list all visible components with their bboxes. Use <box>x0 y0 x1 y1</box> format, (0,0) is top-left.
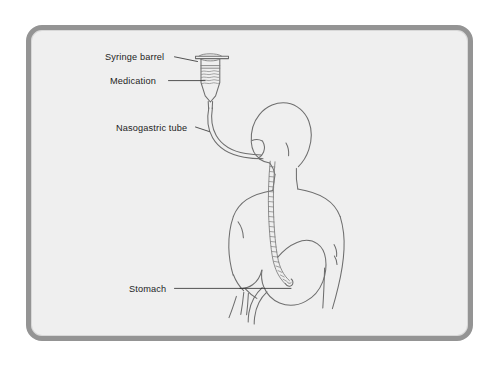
leader-syringe-barrel <box>175 57 198 62</box>
tube-tip-port <box>287 282 291 283</box>
arm-left-forearm <box>229 296 236 317</box>
leader-nasogastric-tube <box>196 127 210 132</box>
neck-right <box>296 168 298 189</box>
shoulder-right <box>298 189 340 217</box>
figure-root: Syringe barrel Medication Nasogastric tu… <box>0 0 499 366</box>
stomach-organ <box>240 240 326 324</box>
torso <box>229 168 344 317</box>
waist-left <box>241 292 244 314</box>
label-medication-text: Medication <box>110 76 156 86</box>
torso-side-right <box>323 268 325 308</box>
nasogastric-tube-diagram: Syringe barrel Medication Nasogastric tu… <box>0 0 499 366</box>
label-medication: Medication <box>110 76 205 86</box>
label-nasogastric-tube-text: Nasogastric tube <box>116 123 187 133</box>
syringe-flange-inner <box>199 54 222 56</box>
waist-left-2 <box>247 293 249 315</box>
head <box>251 103 311 175</box>
brow-line <box>252 140 262 141</box>
mouth-chin-line <box>259 159 269 163</box>
syringe <box>196 54 229 109</box>
medication-fluid <box>201 71 219 84</box>
arm-left-outer <box>229 216 234 275</box>
annotation-layer: Syringe barrel Medication Nasogastric tu… <box>105 52 291 294</box>
esophagus-tube-right-wall <box>273 162 289 281</box>
label-syringe-barrel-text: Syringe barrel <box>105 52 164 62</box>
label-nasogastric-tube: Nasogastric tube <box>116 123 209 133</box>
arm-right-inner-fold-2 <box>334 256 337 264</box>
esophagus-tube-rungs <box>269 167 287 282</box>
shoulder-left <box>233 190 272 216</box>
ear-line <box>286 143 289 156</box>
stomach-lesser-curvature <box>240 270 262 288</box>
esophagus-tube-left-wall <box>268 161 285 284</box>
tube-inner-wall <box>212 108 262 155</box>
label-stomach-text: Stomach <box>129 284 166 294</box>
label-syringe-barrel: Syringe barrel <box>105 52 198 62</box>
arm-right-outer <box>332 217 344 309</box>
pylorus-duodenum-upper <box>248 288 262 322</box>
pylorus-duodenum-lower <box>254 292 267 324</box>
syringe-flange <box>196 56 229 58</box>
arm-right-inner-fold <box>334 245 337 257</box>
arm-left-inner-fold <box>238 222 243 238</box>
esophagus-tube <box>268 161 293 286</box>
